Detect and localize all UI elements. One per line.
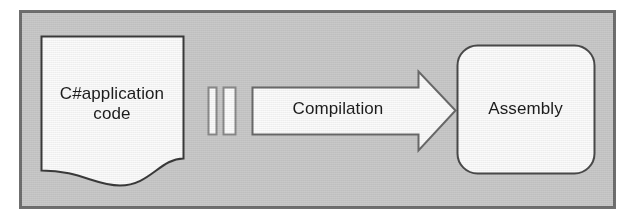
compilation-flow-diagram: C#applicationcode Compilation Assembly — [0, 0, 635, 217]
tick-bar-1-shape — [209, 88, 217, 135]
process-arrow-label: Compilation — [258, 99, 418, 119]
source-document-label: C#applicationcode — [41, 84, 183, 124]
source-document-label-line1: C#application — [60, 84, 164, 103]
source-document-label-line2: code — [93, 104, 130, 123]
assembly-box-label: Assembly — [457, 99, 594, 119]
tick-bar-2-shape — [224, 88, 236, 135]
